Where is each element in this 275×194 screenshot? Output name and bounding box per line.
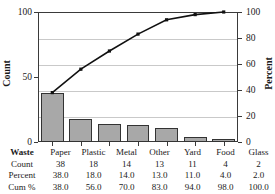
- line-marker-metal: [108, 49, 111, 52]
- table-cell: Yard: [176, 147, 209, 159]
- table-cell: 2.0: [242, 170, 275, 182]
- table-row: WastePaperPlasticMetalOtherYardFoodGlass: [0, 147, 275, 159]
- table-cell: Glass: [242, 147, 275, 159]
- y-axis-label: Count: [1, 54, 12, 94]
- y2-tick-mark: [238, 64, 242, 65]
- x-tick-mark: [52, 142, 53, 146]
- line-marker-food: [194, 13, 197, 16]
- table-cell: 13.0: [143, 170, 176, 182]
- cumulative-percent-line: [52, 12, 223, 93]
- y-tick-mark: [34, 142, 38, 143]
- table-cell: Metal: [110, 147, 143, 159]
- y-tick-label: 0: [27, 138, 32, 148]
- y2-tick-mark: [238, 116, 242, 117]
- table-cell: Plastic: [77, 147, 110, 159]
- table-cell: 4.0: [209, 170, 242, 182]
- y2-tick-mark: [238, 90, 242, 91]
- table-cell: 38.0: [44, 170, 77, 182]
- x-tick-mark: [224, 142, 225, 146]
- table-row: Percent38.018.014.013.011.04.02.0: [0, 170, 275, 182]
- y-tick-label: 50: [23, 73, 33, 83]
- x-tick-mark: [138, 142, 139, 146]
- y-tick-label: 100: [18, 8, 32, 18]
- table-cell: 38.0: [44, 182, 77, 194]
- y-tick-mark: [34, 12, 38, 13]
- row-label: Waste: [0, 147, 44, 159]
- row-label: Count: [0, 159, 44, 171]
- y2-tick-label: 100: [246, 8, 260, 18]
- table-cell: Other: [143, 147, 176, 159]
- table-cell: 56.0: [77, 182, 110, 194]
- table-cell: 4: [209, 159, 242, 171]
- table-cell: 83.0: [143, 182, 176, 194]
- table-cell: 18.0: [77, 170, 110, 182]
- y2-tick-label: 60: [246, 60, 256, 70]
- y2-tick-label: 20: [246, 112, 256, 122]
- table-cell: 98.0: [209, 182, 242, 194]
- table-cell: 2: [242, 159, 275, 171]
- table-cell: 11: [176, 159, 209, 171]
- table-row: Cum %38.056.070.083.094.098.0100.0: [0, 182, 275, 194]
- y2-tick-label: 80: [246, 34, 256, 44]
- table-cell: 100.0: [242, 182, 275, 194]
- x-tick-mark: [195, 142, 196, 146]
- row-label: Cum %: [0, 182, 44, 194]
- line-marker-plastic: [79, 68, 82, 71]
- table-cell: Paper: [44, 147, 77, 159]
- x-tick-mark: [167, 142, 168, 146]
- pareto-chart: Pareto Chart of Waste Count 100 50 0 Per…: [0, 0, 275, 194]
- y2-axis-label: Percent: [263, 52, 274, 96]
- table-cell: 70.0: [110, 182, 143, 194]
- line-marker-paper: [51, 91, 54, 94]
- pareto-data-table: WastePaperPlasticMetalOtherYardFoodGlass…: [0, 147, 275, 193]
- y2-tick-label: 40: [246, 86, 256, 96]
- chart-title: Pareto Chart of Waste: [0, 0, 275, 2]
- table-cell: 11.0: [176, 170, 209, 182]
- cumulative-line-layer: [38, 12, 238, 142]
- y2-tick-mark: [238, 142, 242, 143]
- y2-tick-mark: [238, 12, 242, 13]
- table-cell: 14.0: [110, 170, 143, 182]
- table-cell: 94.0: [176, 182, 209, 194]
- y-tick-mark: [34, 77, 38, 78]
- table-cell: 18: [77, 159, 110, 171]
- y2-tick-mark: [238, 38, 242, 39]
- table-cell: 13: [143, 159, 176, 171]
- table-cell: Food: [209, 147, 242, 159]
- table-cell: 14: [110, 159, 143, 171]
- line-marker-glass: [222, 10, 225, 13]
- table-cell: 38: [44, 159, 77, 171]
- row-label: Percent: [0, 170, 44, 182]
- x-tick-mark: [109, 142, 110, 146]
- x-tick-mark: [81, 142, 82, 146]
- line-marker-yard: [165, 18, 168, 21]
- table-row: Count381814131142: [0, 159, 275, 171]
- y2-tick-label: 0: [246, 138, 251, 148]
- line-marker-other: [136, 33, 139, 36]
